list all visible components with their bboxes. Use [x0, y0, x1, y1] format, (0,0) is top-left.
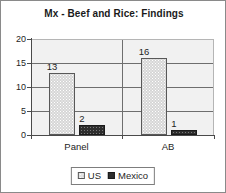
chart-title: Mx - Beef and Rice: Findings [1, 8, 226, 19]
legend-label-mexico: Mexico [118, 170, 148, 181]
y-axis-line [31, 38, 32, 136]
legend-swatch-icon-us [78, 172, 85, 179]
x-axis-line [27, 135, 215, 136]
bar-panel-us[interactable] [49, 73, 75, 135]
bar-panel-mexico[interactable] [79, 125, 105, 135]
legend-swatch-icon-mexico [108, 172, 115, 179]
x-axis-category-ab: AB [122, 141, 214, 152]
x-axis-tick-sep [122, 135, 123, 139]
y-axis-tick-label-0: 0 [21, 131, 26, 140]
legend-label-us: US [88, 170, 101, 181]
x-axis-category-panel: Panel [31, 141, 122, 152]
data-label-panel-mexico: 2 [69, 114, 95, 124]
y-axis-tick-label-10: 10 [16, 83, 26, 92]
chart-legend: US Mexico [71, 167, 155, 185]
data-label-panel-us: 13 [39, 62, 65, 72]
category-divider [122, 40, 123, 135]
x-axis-tick-sep [31, 135, 32, 139]
y-axis-tick-label-15: 15 [16, 59, 26, 68]
y-axis-tick-label-20: 20 [16, 35, 26, 44]
chart-container: Mx - Beef and Rice: Findings 20 15 10 5 … [0, 0, 226, 193]
legend-entry-mexico[interactable]: Mexico [108, 170, 148, 181]
data-label-ab-us: 16 [131, 47, 157, 57]
y-axis-tick-label-5: 5 [21, 107, 26, 116]
legend-entry-us[interactable]: US [78, 170, 101, 181]
x-axis-tick-sep [214, 135, 215, 139]
data-label-ab-mexico: 1 [161, 119, 187, 129]
